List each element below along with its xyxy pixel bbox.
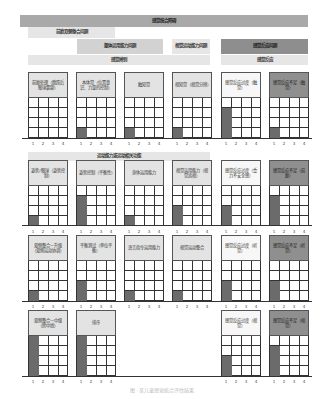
banner-somatopraxis: 躯体运用能力问题 (77, 39, 163, 54)
tick-label: 3 (148, 229, 151, 234)
tick-label: 3 (245, 141, 248, 146)
tick-label: 2 (90, 229, 93, 234)
score-bar (173, 128, 183, 138)
tick-label: 4 (62, 229, 65, 234)
card-title: 感觉反应过度（触觉） (221, 72, 261, 98)
assessment-card: 感觉反应过度（重力不安全感）1234 (221, 160, 261, 234)
tick-label: 3 (100, 304, 103, 309)
card-title: 触知觉 (124, 72, 164, 98)
tick-label: 1 (80, 379, 83, 384)
assessment-card: 本体觉（位置意识、力量的控制）1234 (76, 72, 116, 146)
tick-label: 3 (293, 229, 296, 234)
score-grid (28, 336, 68, 376)
tick-labels: 1234 (28, 379, 68, 384)
card-title: 感觉反应不足（听觉） (269, 235, 309, 261)
tick-labels: 1234 (124, 304, 164, 309)
banner-vestibular-bilateral: 前庭双侧整合问题 (28, 27, 115, 38)
score-grid (172, 261, 212, 301)
tick-labels: 1234 (221, 141, 261, 146)
tick-label: 1 (32, 379, 35, 384)
tick-labels: 1234 (172, 229, 212, 234)
tick-label: 1 (32, 304, 35, 309)
assessment-card: 感觉反应不足（听觉）1234 (269, 235, 309, 309)
tick-label: 3 (100, 229, 103, 234)
tick-labels: 1234 (28, 141, 68, 146)
tick-label: 4 (110, 141, 113, 146)
banner-sensory-integration-disorder: 感觉统合障碍 (20, 15, 308, 27)
tick-label: 1 (128, 141, 131, 146)
tick-labels: 1234 (76, 141, 116, 146)
score-grid (221, 336, 261, 376)
tick-labels: 1234 (76, 229, 116, 234)
score-bar (270, 196, 280, 226)
tick-label: 4 (158, 304, 161, 309)
score-grid (221, 186, 261, 226)
tick-label: 1 (32, 229, 35, 234)
score-bar (222, 281, 232, 301)
score-bar (77, 196, 87, 226)
tick-label: 2 (90, 304, 93, 309)
tick-label: 2 (138, 141, 141, 146)
banner-sensory-discrimination: 感觉辨别 (28, 55, 210, 65)
tick-label: 4 (158, 229, 161, 234)
row2-baseline (22, 225, 312, 226)
tick-label: 2 (235, 304, 238, 309)
score-bar (77, 128, 87, 138)
assessment-card: 感觉反应不足（视觉）1234 (269, 310, 309, 384)
tick-label: 4 (62, 304, 65, 309)
card-title: 双侧整合—中级（跨中线） (28, 310, 68, 336)
tick-label: 2 (235, 379, 238, 384)
tick-label: 1 (80, 304, 83, 309)
assessment-card: 姿势控制（平衡性）1234 (76, 160, 116, 234)
tick-label: 4 (303, 229, 306, 234)
tick-label: 2 (283, 304, 286, 309)
card-title: 前庭处理（跳跃后眼球震颤） (28, 72, 68, 98)
tick-label: 2 (283, 229, 286, 234)
tick-label: 2 (235, 229, 238, 234)
score-grid (28, 261, 68, 301)
score-grid (124, 261, 164, 301)
assessment-card: 姿势/眼球（姿势控制）1234 (28, 160, 68, 234)
tick-label: 2 (186, 141, 189, 146)
tick-labels: 1234 (221, 304, 261, 309)
tick-label: 1 (176, 229, 179, 234)
tick-label: 4 (206, 229, 209, 234)
banner-visuomotor: 视觉运动能力问题 (172, 39, 210, 54)
tick-label: 2 (283, 379, 286, 384)
score-grid (76, 186, 116, 226)
tick-label: 4 (158, 141, 161, 146)
tick-label: 2 (235, 141, 238, 146)
tick-labels: 1234 (269, 304, 309, 309)
tick-label: 4 (255, 379, 258, 384)
tick-label: 1 (225, 229, 228, 234)
tick-label: 1 (80, 229, 83, 234)
card-title: 语言指令运用能力 (124, 235, 164, 261)
tick-labels: 1234 (269, 229, 309, 234)
assessment-card: 感觉反应过度（听觉）1234 (221, 235, 261, 309)
tick-label: 3 (245, 379, 248, 384)
tick-labels: 1234 (76, 379, 116, 384)
assessment-card: 感觉反应不足（前庭）1234 (269, 160, 309, 234)
card-title: 视知觉（视觉分辨） (172, 72, 212, 98)
row3-baseline (22, 301, 312, 302)
tick-label: 3 (148, 141, 151, 146)
card-title: 视觉运用能力（视觉追视） (172, 160, 212, 186)
tick-label: 2 (42, 229, 45, 234)
tick-label: 3 (100, 379, 103, 384)
row4-baseline (22, 376, 312, 377)
tick-label: 3 (196, 304, 199, 309)
card-title: 感觉反应不足（触觉） (269, 72, 309, 98)
assessment-card: 视觉运动整合1234 (172, 235, 212, 309)
tick-label: 3 (148, 304, 151, 309)
tick-label: 3 (196, 141, 199, 146)
card-title: 感觉反应不足（视觉） (269, 310, 309, 336)
card-title: 排序 (76, 310, 116, 336)
tick-label: 3 (245, 304, 248, 309)
tick-labels: 1234 (221, 229, 261, 234)
assessment-card: 感觉反应过度（触觉）1234 (221, 72, 261, 146)
tick-label: 1 (273, 229, 276, 234)
tick-label: 4 (62, 141, 65, 146)
score-grid (269, 98, 309, 138)
tick-labels: 1234 (28, 304, 68, 309)
tick-label: 2 (186, 304, 189, 309)
